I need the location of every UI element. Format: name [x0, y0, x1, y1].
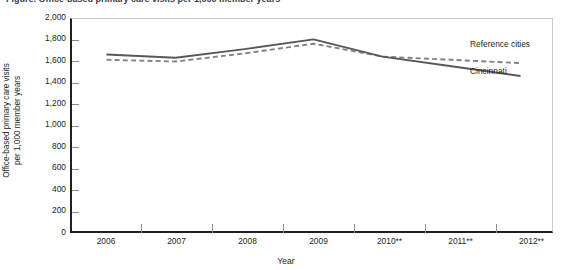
y-axis-tick-labels: 2,000 1,800 1,600 1,400 1,200 1,000 800 … [14, 0, 66, 270]
y-axis-title-line-1: Office-based primary care visits [2, 16, 13, 226]
y-tick-label: 600 [20, 163, 66, 172]
y-tick-label: 2,000 [20, 13, 66, 22]
x-axis-title: Year [0, 256, 572, 266]
y-tick-label: 400 [20, 185, 66, 194]
x-tick-mark [283, 224, 284, 233]
x-tick-label: 2012** [496, 236, 567, 246]
x-tick-mark [425, 224, 426, 233]
x-tick-label: 2008 [212, 236, 283, 246]
series-label-cincinnati: Cincinnati [470, 66, 507, 76]
y-tick-label: 1,600 [20, 56, 66, 65]
figure-caption: Figure. Office-based primary care visits… [6, 0, 546, 5]
y-tick-label: 1,200 [20, 99, 66, 108]
y-tick-label: 0 [20, 228, 66, 237]
x-tick-mark [354, 224, 355, 233]
x-tick-mark [212, 224, 213, 233]
y-tick-label: 1,800 [20, 34, 66, 43]
series-label-reference-cities: Reference cities [470, 39, 530, 49]
y-tick-label: 1,000 [20, 120, 66, 129]
x-tick-label: 2009 [283, 236, 354, 246]
y-tick-label: 1,400 [20, 77, 66, 86]
series-line-cincinnati [107, 39, 521, 76]
plot-area [70, 18, 553, 233]
figure-chart: Figure. Office-based primary care visits… [0, 0, 572, 270]
x-tick-label: 2011** [425, 236, 496, 246]
x-tick-label: 2010** [354, 236, 425, 246]
series-canvas [70, 18, 557, 236]
x-tick-label: 2006 [71, 236, 141, 246]
y-tick-label: 200 [20, 206, 66, 215]
series-line-reference-cities [107, 44, 521, 63]
x-tick-mark [141, 224, 142, 233]
x-tick-mark [496, 224, 497, 233]
x-tick-label: 2007 [141, 236, 212, 246]
y-tick-label: 800 [20, 142, 66, 151]
